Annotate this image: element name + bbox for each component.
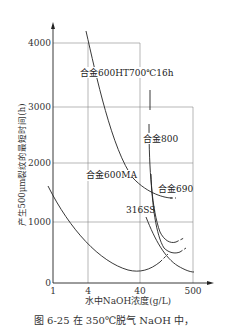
label-600ht: 合金600HT700℃16h (80, 67, 174, 78)
y-arrow-icon (51, 22, 55, 29)
chart: 0 1000 2000 3000 4000 1 4 40 500 水中NaOH浓… (0, 0, 228, 332)
label-600ma: 合金600MA (86, 169, 137, 180)
y-tick: 2000 (28, 158, 51, 168)
x-tick: 500 (184, 286, 201, 296)
axes (53, 26, 210, 283)
label-800: 合金800 (143, 133, 178, 144)
y-tick: 3000 (28, 102, 51, 112)
x-tick: 4 (85, 286, 91, 296)
curve-690-dash (180, 248, 186, 252)
y-axis-label: 产生500μm裂纹的最短时间(h) (17, 104, 27, 227)
figure-caption: 图 6-25 在 350℃脱气 NaOH 中， (0, 312, 228, 327)
x-tick: 1 (50, 286, 56, 296)
x-tick: 40 (134, 286, 146, 296)
y-tick: 1000 (28, 217, 51, 227)
label-316ss: 316SS (126, 205, 155, 215)
x-axis-label: 水中NaOH浓度(g/L) (85, 295, 171, 306)
label-690: 合金690 (158, 183, 193, 194)
curve-316ss (146, 217, 194, 272)
x-arrow-icon (207, 281, 214, 285)
curve-600ma (48, 186, 160, 271)
curve-800-dash (176, 238, 184, 242)
grid (53, 43, 193, 283)
y-tick: 4000 (28, 38, 51, 48)
